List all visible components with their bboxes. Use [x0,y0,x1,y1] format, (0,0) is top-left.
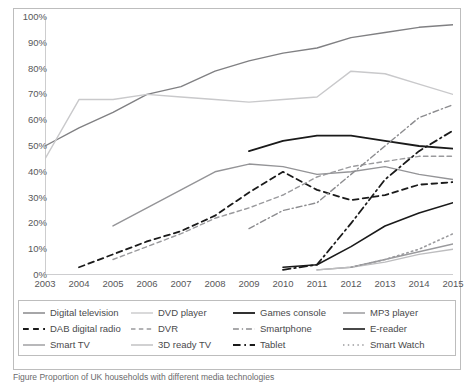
legend-swatch-icon [343,324,365,334]
y-tick-label: 80% [13,64,47,74]
x-tick-label: 2004 [64,279,94,289]
legend-label: DVD player [158,308,207,318]
x-tick-label: 2009 [234,279,264,289]
legend-swatch-icon [233,308,255,318]
legend-swatch-icon [233,340,255,350]
legend-item-tablet: Tablet [233,337,343,353]
line-chart-svg [45,17,453,275]
legend-label: Smartphone [260,324,312,334]
y-tick-label: 90% [13,38,47,48]
y-tick-label: 40% [13,167,47,177]
legend-label: MP3 player [370,308,418,318]
x-tick-label: 2015 [438,279,468,289]
legend-label: 3D ready TV [158,340,211,350]
legend-item-3d-ready-tv: 3D ready TV [131,337,233,353]
legend-swatch-icon [23,308,45,318]
series-line-smart-watch [351,234,453,268]
legend-label: Games console [260,308,326,318]
legend-item-mp3-player: MP3 player [343,305,451,321]
legend-item-games-console: Games console [233,305,343,321]
legend-item-e-reader: E-reader [343,321,451,337]
y-tick-label: 20% [13,218,47,228]
figure-container: 0%10%20%30%40%50%60%70%80%90%100% 200320… [0,0,474,382]
y-tick-label: 60% [13,115,47,125]
series-line-e-reader [283,203,453,268]
legend-label: Smart Watch [370,340,425,350]
legend-label: E-reader [370,324,407,334]
legend-label: Smart TV [50,340,90,350]
x-tick-label: 2006 [132,279,162,289]
y-tick-label: 30% [13,193,47,203]
legend-label: DVR [158,324,178,334]
legend-label: DAB digital radio [50,324,121,334]
plot-area [45,17,453,275]
x-tick-label: 2005 [98,279,128,289]
y-tick-label: 100% [13,12,47,22]
x-tick-label: 2007 [166,279,196,289]
legend-swatch-icon [23,324,45,334]
legend-swatch-icon [131,324,153,334]
legend-item-smart-tv: Smart TV [23,337,131,353]
legend-swatch-icon [343,340,365,350]
x-tick-label: 2010 [268,279,298,289]
x-tick-label: 2014 [404,279,434,289]
figure-caption: Figure Proportion of UK households with … [13,372,463,382]
y-axis-labels: 0%10%20%30%40%50%60%70%80%90%100% [13,10,47,282]
legend-swatch-icon [131,340,153,350]
legend-item-digital-television: Digital television [23,305,131,321]
legend-swatch-icon [131,308,153,318]
x-axis-labels: 2003200420052006200720082009201020112012… [45,278,453,294]
chart-legend: Digital televisionDVD playerGames consol… [18,300,456,356]
x-tick-label: 2012 [336,279,366,289]
legend-swatch-icon [343,308,365,318]
y-tick-label: 50% [13,141,47,151]
legend-swatch-icon [23,340,45,350]
legend-item-dvr: DVR [131,321,233,337]
legend-label: Digital television [50,308,119,318]
series-line-smart-tv [317,244,453,270]
series-line-tablet [283,131,453,270]
legend-item-dvd-player: DVD player [131,305,233,321]
x-tick-label: 2003 [30,279,60,289]
legend-item-smart-watch: Smart Watch [343,337,451,353]
legend-item-dab-digital-radio: DAB digital radio [23,321,131,337]
series-line-digital-television [45,25,453,146]
legend-item-smartphone: Smartphone [233,321,343,337]
x-tick-label: 2011 [302,279,332,289]
y-tick-label: 70% [13,89,47,99]
x-tick-label: 2008 [200,279,230,289]
y-tick-label: 10% [13,244,47,254]
legend-swatch-icon [233,324,255,334]
legend-label: Tablet [260,340,285,350]
x-tick-label: 2013 [370,279,400,289]
